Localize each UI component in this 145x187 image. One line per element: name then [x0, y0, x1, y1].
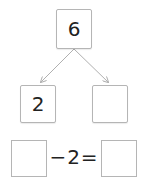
whole-value: 6: [68, 17, 81, 41]
equation-operator-text: −2=: [48, 145, 100, 169]
whole-box: 6: [56, 9, 92, 49]
part-left-box: 2: [20, 85, 56, 123]
equation-left-blank[interactable]: [11, 140, 47, 177]
part-left-value: 2: [32, 92, 45, 116]
part-right-blank[interactable]: [92, 85, 128, 123]
equation-right-blank[interactable]: [101, 140, 137, 177]
